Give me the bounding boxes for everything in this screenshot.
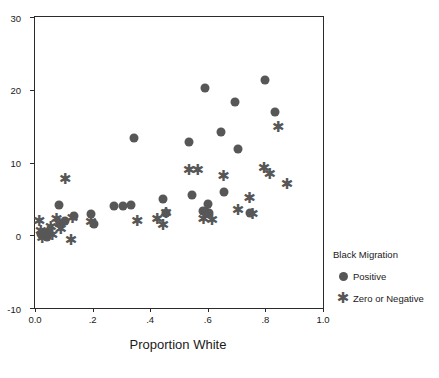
data-point-positive	[271, 107, 280, 116]
x-axis-tick-label: .6	[204, 314, 212, 325]
y-axis-tick-label: 0	[16, 230, 21, 241]
data-point-positive	[110, 202, 119, 211]
legend-label-zero-or-negative: Zero or Negative	[353, 293, 424, 304]
data-point-positive	[130, 134, 139, 143]
data-point-zero-or-negative: ✱	[217, 169, 230, 182]
data-point-zero-or-negative: ✱	[243, 192, 256, 205]
legend-asterisk-icon: ✱	[333, 292, 353, 304]
data-point-positive	[55, 201, 64, 210]
data-point-zero-or-negative: ✱	[246, 208, 259, 221]
y-axis-tick-label: -10	[7, 303, 21, 314]
x-axis-tick	[208, 308, 209, 312]
data-point-positive	[118, 202, 127, 211]
scatter-chart: -100102030 0.0.2.4.6.81.0 ✱✱✱✱✱✱✱✱✱✱✱✱✱✱…	[0, 0, 439, 378]
x-axis-tick-label: 0.0	[28, 314, 41, 325]
data-point-zero-or-negative: ✱	[281, 178, 294, 191]
legend-circle-icon	[333, 272, 353, 281]
x-axis-tick	[265, 308, 266, 312]
data-point-positive	[159, 194, 168, 203]
legend-item-zero-or-negative: ✱ Zero or Negative	[333, 292, 437, 304]
data-point-zero-or-negative: ✱	[272, 120, 285, 133]
legend-label-positive: Positive	[353, 271, 386, 282]
data-point-positive	[216, 127, 225, 136]
x-axis-tick-label: .2	[89, 314, 97, 325]
x-axis-tick	[323, 308, 324, 312]
data-point-positive	[187, 190, 196, 199]
legend: Black Migration Positive ✱ Zero or Negat…	[333, 249, 437, 314]
legend-title: Black Migration	[333, 249, 437, 260]
y-axis-tick-label: 10	[10, 158, 21, 169]
data-point-zero-or-negative: ✱	[65, 234, 78, 247]
legend-item-positive: Positive	[333, 270, 437, 282]
y-axis-tick-label: 30	[10, 12, 21, 23]
y-axis-tick-label: 20	[10, 85, 21, 96]
data-point-zero-or-negative: ✱	[191, 163, 204, 176]
data-point-positive	[234, 144, 243, 153]
data-point-positive	[261, 76, 270, 85]
data-point-zero-or-negative: ✱	[206, 213, 219, 226]
data-point-zero-or-negative: ✱	[66, 211, 79, 224]
x-axis-tick	[35, 308, 36, 312]
data-points-layer: ✱✱✱✱✱✱✱✱✱✱✱✱✱✱✱✱✱✱✱✱✱✱✱✱✱✱✱✱✱✱	[35, 17, 323, 308]
data-point-positive	[185, 138, 194, 147]
x-axis-tick	[93, 308, 94, 312]
x-axis-tick-label: .8	[261, 314, 269, 325]
data-point-zero-or-negative: ✱	[85, 216, 98, 229]
data-point-positive	[203, 199, 212, 208]
plot-frame: -100102030 0.0.2.4.6.81.0 ✱✱✱✱✱✱✱✱✱✱✱✱✱✱…	[34, 16, 324, 309]
data-point-positive	[219, 187, 228, 196]
data-point-positive	[200, 84, 209, 93]
data-point-zero-or-negative: ✱	[59, 173, 72, 186]
x-axis-tick-label: .4	[146, 314, 154, 325]
x-axis-title: Proportion White	[34, 337, 322, 352]
x-axis-tick-label: 1.0	[316, 314, 329, 325]
data-point-zero-or-negative: ✱	[131, 214, 144, 227]
data-point-zero-or-negative: ✱	[263, 168, 276, 181]
data-point-positive	[231, 98, 240, 107]
data-point-positive	[127, 200, 136, 209]
x-axis-tick	[150, 308, 151, 312]
data-point-zero-or-negative: ✱	[160, 206, 173, 219]
